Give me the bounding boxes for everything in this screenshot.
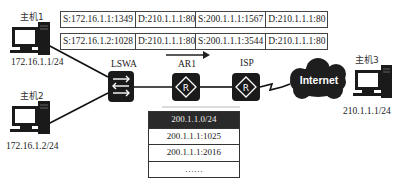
nat-table-row: …… bbox=[149, 161, 239, 178]
host3-ip: 210.1.1.1/24 bbox=[343, 106, 391, 116]
switch-label: LSWA bbox=[111, 59, 137, 69]
host1-name: 主机1 bbox=[20, 10, 44, 23]
host2-ip: 172.16.1.2/24 bbox=[6, 141, 59, 151]
packet-destination: D:210.1.1.1:80 bbox=[136, 12, 197, 27]
router1-label: AR1 bbox=[178, 59, 196, 69]
host1-computer-icon bbox=[10, 22, 50, 55]
packet-destination: D:210.1.1.1:80 bbox=[136, 34, 197, 49]
nat-table-row: 200.1.1.1:1025 bbox=[149, 128, 239, 145]
packet-destination: D:210.1.1.1:80 bbox=[266, 34, 327, 49]
host3-name: 主机3 bbox=[355, 53, 379, 66]
nat-table-row: 200.1.1.1:2016 bbox=[149, 144, 239, 161]
router-icon-isp: R bbox=[232, 73, 260, 101]
host3-computer-icon bbox=[353, 65, 392, 98]
internet-label: Internet bbox=[298, 74, 340, 86]
host2-computer-icon bbox=[10, 101, 50, 134]
packet-source: S:172.16.1.1:1349 bbox=[61, 12, 136, 27]
router-icon-ar1: R bbox=[172, 73, 200, 101]
packet-source: S:172.16.1.2:1028 bbox=[61, 34, 136, 49]
svg-text:R: R bbox=[183, 83, 189, 93]
packet-source: S:200.1.1.1:1567 bbox=[196, 12, 266, 27]
packet-before-nat-2: S:172.16.1.2:1028 D:210.1.1.1:80 bbox=[60, 33, 198, 50]
flow-arrow-icon bbox=[166, 51, 210, 59]
packet-source: S:200.1.1.1:3544 bbox=[196, 34, 266, 49]
switch-icon bbox=[108, 71, 134, 102]
host1-ip: 172.16.1.1/24 bbox=[11, 57, 64, 67]
packet-destination: D:210.1.1.1:80 bbox=[266, 12, 327, 27]
link-isp-internet bbox=[260, 84, 290, 90]
nat-address-table: 200.1.1.0/24 200.1.1.1:1025 200.1.1.1:20… bbox=[148, 111, 240, 178]
nat-table-header: 200.1.1.0/24 bbox=[149, 112, 239, 128]
host2-name: 主机2 bbox=[20, 89, 44, 102]
packet-after-nat-2: S:200.1.1.1:3544 D:210.1.1.1:80 bbox=[195, 33, 328, 50]
packet-after-nat-1: S:200.1.1.1:1567 D:210.1.1.1:80 bbox=[195, 11, 328, 28]
packet-before-nat-1: S:172.16.1.1:1349 D:210.1.1.1:80 bbox=[60, 11, 198, 28]
link-host2-switch bbox=[48, 93, 108, 124]
router2-label: ISP bbox=[240, 58, 254, 68]
svg-text:R: R bbox=[243, 83, 249, 93]
